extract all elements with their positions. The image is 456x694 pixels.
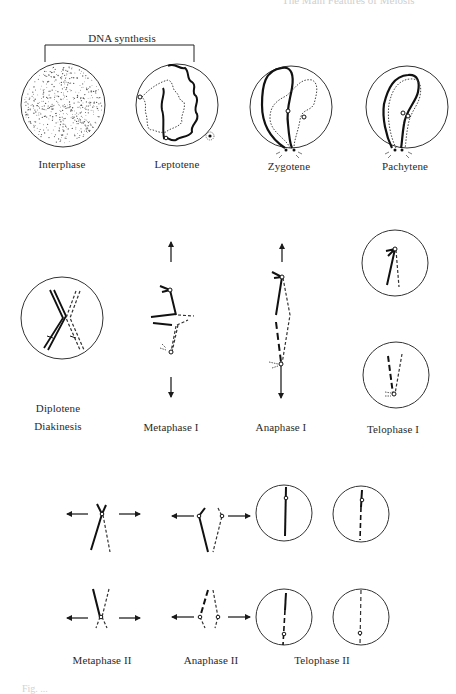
diplotene-diakinesis-cell [21,277,103,359]
stage-label-metaphase-i: Metaphase I [143,421,198,433]
stage-label-diplotene: Diplotene [36,402,80,414]
metaphase-ii-figure-bottom [67,589,140,628]
metaphase-ii-figure-top [67,504,140,552]
pachytene-cell [366,66,448,158]
interphase-cell [21,63,105,147]
anaphase-i-figure [269,244,290,398]
dna-synthesis-bracket [45,45,194,62]
anaphase-ii-figure-top [172,508,250,552]
anaphase-ii-figure-bottom [172,590,250,628]
figure-caption: Fig. ... [22,683,48,694]
stage-label-leptotene: Leptotene [155,158,200,170]
stage-label-metaphase-ii: Metaphase II [73,654,132,666]
stage-label-anaphase-ii: Anaphase II [184,654,239,666]
stage-label-telophase-i: Telophase I [367,423,419,435]
stage-label-telophase-ii: Telophase II [294,654,350,666]
telophase-i-cells [362,230,429,408]
metaphase-i-figure [151,242,194,397]
stage-label-diakinesis: Diakinesis [34,420,81,432]
dna-synthesis-label: DNA synthesis [88,32,156,44]
stage-label-interphase: Interphase [39,158,86,170]
stage-label-zygotene: Zygotene [268,160,310,172]
leptotene-cell [136,64,218,146]
stage-label-anaphase-i: Anaphase I [256,421,307,433]
telophase-ii-cells [256,485,389,645]
stage-label-pachytene: Pachytene [382,160,428,172]
zygotene-cell [250,66,332,158]
